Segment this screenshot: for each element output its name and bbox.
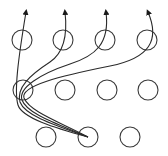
node-middle-m2	[55, 80, 75, 100]
node-middle-m3	[97, 80, 117, 100]
node-bottom-b3	[120, 127, 140, 147]
edges-group	[16, 12, 152, 137]
edge-b2-to-t2-arrow	[19, 12, 88, 137]
node-middle-m4	[138, 80, 158, 100]
node-top-t2	[53, 30, 73, 50]
network-diagram	[0, 0, 168, 156]
edge-b2-to-t3-arrow	[22, 12, 107, 137]
edge-b2-to-t4-arrow	[24, 12, 153, 137]
nodes-group	[12, 30, 158, 147]
node-bottom-b1	[36, 127, 56, 147]
edge-b2-to-t1-arrow	[16, 12, 88, 137]
node-top-t4	[137, 30, 157, 50]
